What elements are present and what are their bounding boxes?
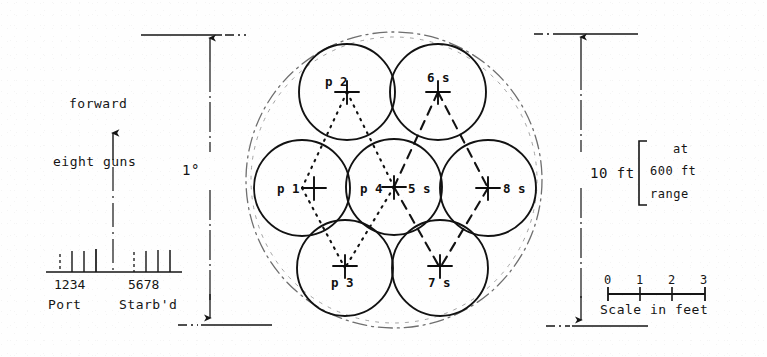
centre-cross-markers xyxy=(302,81,500,278)
starboard-label: Starb'd xyxy=(119,297,177,313)
angular-dimension-label: 1° xyxy=(182,162,200,180)
starboard-gun-numbers: 5678 xyxy=(128,277,159,293)
scale-tick-label-2: 2 xyxy=(668,273,676,288)
shell-label-p4: p 4 xyxy=(360,181,383,196)
diagram-canvas: forward eight guns 1234 5678 Port Starb'… xyxy=(0,0,767,357)
shell-label-5s: 5 s xyxy=(408,181,431,196)
shell-label-p2: p 2 xyxy=(325,74,348,89)
linear-dimension-label: 10 ft xyxy=(590,165,635,183)
scale-tick-label-3: 3 xyxy=(700,273,708,288)
scale-bar-caption: Scale in feet xyxy=(600,302,708,318)
range-note-line-1: at xyxy=(673,142,688,157)
scale-tick-label-1: 1 xyxy=(636,273,644,288)
gun-position-axis xyxy=(46,249,182,272)
port-gun-numbers: 1234 xyxy=(54,277,85,293)
range-note-line-2: 600 ft xyxy=(650,164,696,179)
forward-label: forward xyxy=(69,96,127,112)
shell-circle-group xyxy=(254,44,536,316)
eight-guns-label: eight guns xyxy=(53,154,136,170)
port-label: Port xyxy=(48,297,81,313)
range-note-bracket xyxy=(639,141,647,205)
scale-tick-label-0: 0 xyxy=(604,273,612,288)
port-pattern-links xyxy=(302,92,394,268)
shell-label-p3: p 3 xyxy=(331,275,354,290)
scale-bar xyxy=(608,287,705,301)
shell-label-6s: 6 s xyxy=(427,70,450,85)
shell-label-p1: p 1 xyxy=(277,181,300,196)
angular-dimension-1deg xyxy=(141,35,272,325)
range-note-line-3: range xyxy=(650,187,689,202)
shell-label-8s: 8 s xyxy=(503,181,526,196)
cross-p4-5s xyxy=(382,176,406,199)
shell-label-7s: 7 s xyxy=(428,275,451,290)
cross-8s xyxy=(476,177,500,200)
